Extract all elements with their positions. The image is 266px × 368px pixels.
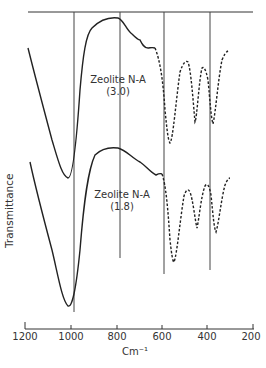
x-tick-label-1000: 1000	[58, 331, 83, 342]
series-label-1-8-name: Zeolite N-A	[94, 189, 150, 201]
x-tick-label-400: 400	[197, 331, 216, 342]
series-label-1-8: Zeolite N-A (1.8)	[94, 189, 150, 213]
series-3-0-dashed	[155, 48, 228, 143]
x-tick-label-600: 600	[152, 331, 171, 342]
series-label-3-0-ratio: (3.0)	[90, 86, 146, 98]
x-tick-label-200: 200	[241, 331, 260, 342]
ir-spectrum-plot	[0, 0, 266, 368]
series-label-3-0: Zeolite N-A (3.0)	[90, 74, 146, 98]
y-axis-label: Transmittance	[3, 174, 15, 248]
series-label-3-0-name: Zeolite N-A	[90, 74, 146, 86]
series-1-8-solid	[30, 148, 162, 306]
x-axis-label: Cm⁻¹	[122, 346, 148, 357]
x-tick-label-1200: 1200	[12, 331, 37, 342]
series-1-8-dashed	[162, 174, 230, 262]
x-tick-label-800: 800	[107, 331, 126, 342]
series-label-1-8-ratio: (1.8)	[94, 201, 150, 213]
